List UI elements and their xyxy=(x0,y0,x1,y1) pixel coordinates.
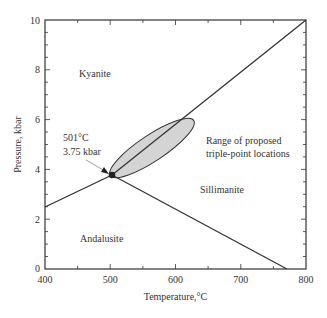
y-tick-label: 6 xyxy=(35,114,40,125)
range-annotation-line2: triple-point locations xyxy=(206,148,290,159)
y-tick-label: 0 xyxy=(35,263,40,274)
y-tick-label: 4 xyxy=(35,164,40,175)
kyanite-region-label: Kyanite xyxy=(79,68,111,79)
triple-point-temperature: 501°C xyxy=(63,132,89,143)
triple-point-marker xyxy=(109,172,116,179)
y-axis-title: Pressure, kbar xyxy=(12,116,23,173)
sillimanite-region-label: Sillimanite xyxy=(200,184,244,195)
range-annotation-line1: Range of proposed xyxy=(206,135,282,146)
andalusite-kyanite-boundary xyxy=(45,175,112,207)
triple-point-arrow xyxy=(86,160,109,174)
x-tick-label: 800 xyxy=(299,274,314,285)
x-tick-label: 700 xyxy=(233,274,248,285)
triple-point-range-ellipse xyxy=(103,110,201,187)
y-tick-label: 10 xyxy=(30,15,40,26)
x-tick-label: 500 xyxy=(103,274,118,285)
phase-diagram: 400 500 600 700 800 0 2 4 6 8 10 Tempera… xyxy=(0,0,327,318)
x-tick-label: 400 xyxy=(38,274,53,285)
y-tick-label: 2 xyxy=(35,214,40,225)
x-tick-label: 600 xyxy=(168,274,183,285)
triple-point-pressure: 3.75 kbar xyxy=(63,146,101,157)
y-tick-label: 8 xyxy=(35,64,40,75)
andalusite-region-label: Andalusite xyxy=(80,233,124,244)
x-axis-title: Temperature,°C xyxy=(144,291,208,302)
